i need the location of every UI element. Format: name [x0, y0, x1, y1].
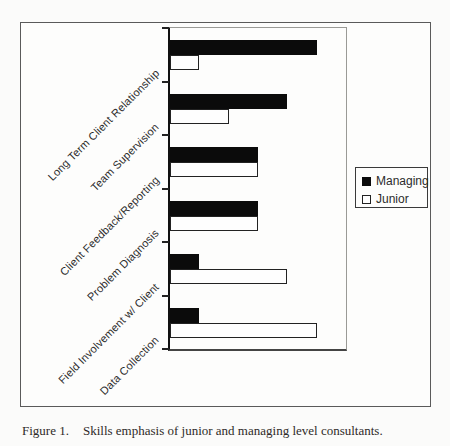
- axis-tick-3: [162, 188, 169, 190]
- managing-swatch-icon: [362, 177, 371, 186]
- bar-managing-2: [170, 147, 258, 162]
- legend: Managing Junior: [355, 167, 428, 208]
- legend-label-junior: Junior: [376, 192, 409, 206]
- axis-tick-4: [162, 241, 169, 243]
- plot-area: [168, 27, 347, 351]
- bar-managing-5: [170, 308, 199, 323]
- bar-managing-4: [170, 254, 199, 269]
- legend-label-managing: Managing: [376, 174, 429, 188]
- bar-junior-2: [170, 162, 258, 177]
- junior-swatch-icon: [362, 195, 371, 204]
- figure-caption-text: Skills emphasis of junior and managing l…: [83, 423, 383, 438]
- figure-caption: Figure 1.Skills emphasis of junior and m…: [22, 423, 383, 439]
- bar-managing-1: [170, 94, 287, 109]
- legend-item-junior: Junior: [362, 191, 427, 207]
- axis-tick-6: [162, 348, 169, 350]
- bar-managing-3: [170, 201, 258, 216]
- figure-caption-label: Figure 1.: [22, 423, 69, 438]
- axis-tick-5: [162, 295, 169, 297]
- bar-managing-0: [170, 40, 317, 55]
- bar-junior-3: [170, 216, 258, 231]
- bar-junior-0: [170, 55, 199, 70]
- bar-junior-5: [170, 323, 317, 338]
- axis-tick-1: [162, 81, 169, 83]
- scanned-figure-page: Long Term Client Relationship Team Super…: [0, 0, 450, 446]
- bar-junior-4: [170, 269, 287, 284]
- axis-tick-2: [162, 134, 169, 136]
- axis-tick-0: [162, 27, 169, 29]
- bar-junior-1: [170, 109, 229, 124]
- legend-item-managing: Managing: [362, 173, 427, 189]
